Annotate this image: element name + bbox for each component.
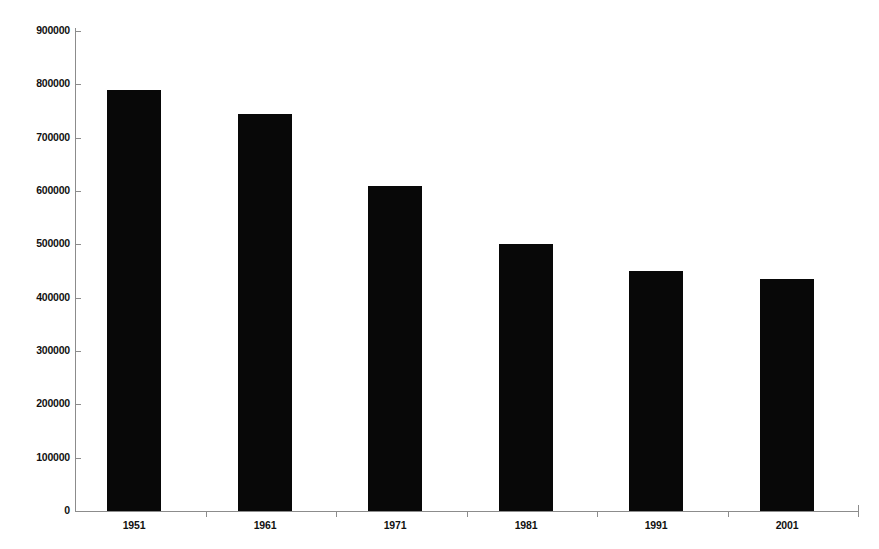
x-axis-tick xyxy=(206,511,207,517)
y-axis-tick-label: 600000 xyxy=(0,185,70,197)
x-axis-tick xyxy=(467,511,468,517)
y-axis-tick-label-text: 900000 xyxy=(4,25,70,36)
y-axis-tick xyxy=(75,31,81,32)
y-axis-tick-label: 0 xyxy=(0,505,70,517)
y-axis-tick-label-text: 100000 xyxy=(4,452,70,463)
y-axis-tick-label: 400000 xyxy=(0,292,70,304)
x-axis-tick xyxy=(858,511,859,517)
x-axis-tick-label: 1971 xyxy=(355,520,435,531)
y-axis-tick-label: 300000 xyxy=(0,345,70,357)
chart-page: 0100000200000300000400000500000600000700… xyxy=(0,0,879,549)
x-axis-tick xyxy=(728,511,729,517)
y-axis-tick-label-text: 500000 xyxy=(4,238,70,249)
y-axis-tick-label-text: 400000 xyxy=(4,292,70,303)
y-axis-tick-label-text: 200000 xyxy=(4,398,70,409)
x-axis-tick-label: 1991 xyxy=(616,520,696,531)
y-axis-tick xyxy=(75,138,81,139)
x-axis-tick-label: 1951 xyxy=(94,520,174,531)
x-axis-tick-label: 1961 xyxy=(225,520,305,531)
y-axis-tick-label: 800000 xyxy=(0,78,70,90)
y-axis-tick xyxy=(75,458,81,459)
bar xyxy=(107,90,161,511)
y-axis-tick xyxy=(75,511,81,512)
y-axis-tick xyxy=(75,84,81,85)
y-axis-tick-label: 200000 xyxy=(0,398,70,410)
bar-chart-plot-area: 0100000200000300000400000500000600000700… xyxy=(0,0,879,549)
y-axis-tick-label-text: 300000 xyxy=(4,345,70,356)
y-axis-tick-label: 100000 xyxy=(0,452,70,464)
y-axis-tick xyxy=(75,298,81,299)
y-axis-line xyxy=(75,28,76,512)
y-axis-tick-label: 900000 xyxy=(0,25,70,37)
bar xyxy=(238,114,292,511)
y-axis-tick-label: 700000 xyxy=(0,132,70,144)
x-axis-tick-label: 2001 xyxy=(747,520,827,531)
y-axis-tick-label-text: 700000 xyxy=(4,132,70,143)
y-axis-tick xyxy=(75,191,81,192)
y-axis-tick-label: 500000 xyxy=(0,238,70,250)
x-axis-tick xyxy=(597,511,598,517)
bar xyxy=(368,186,422,511)
bar xyxy=(499,244,553,511)
y-axis-tick-label-text: 600000 xyxy=(4,185,70,196)
y-axis-tick xyxy=(75,351,81,352)
y-axis-tick xyxy=(75,404,81,405)
x-axis-tick xyxy=(336,511,337,517)
bar xyxy=(760,279,814,511)
y-axis-tick-label-text: 0 xyxy=(4,505,70,516)
y-axis-tick-label-text: 800000 xyxy=(4,78,70,89)
y-axis-tick xyxy=(75,244,81,245)
bar xyxy=(629,271,683,511)
x-axis-tick-label: 1981 xyxy=(486,520,566,531)
